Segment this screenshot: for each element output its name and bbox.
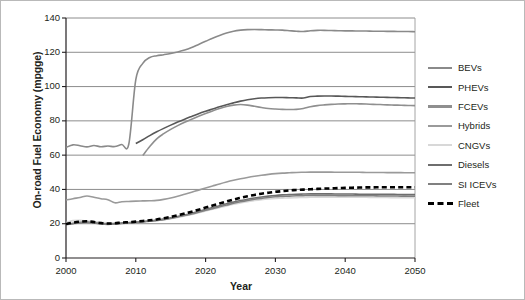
series-line-fleet bbox=[66, 187, 415, 224]
legend-item[interactable]: FCEVs bbox=[428, 97, 497, 116]
legend-item[interactable]: SI ICEVs bbox=[428, 174, 497, 193]
legend-item-label: Hybrids bbox=[458, 120, 490, 131]
series-line-diesels bbox=[66, 194, 415, 225]
legend-item[interactable]: CNGVs bbox=[428, 136, 497, 155]
legend-item[interactable]: Diesels bbox=[428, 155, 497, 174]
series-line-bevs bbox=[66, 29, 415, 148]
chart-legend: BEVsPHEVsFCEVsHybridsCNGVsDieselsSI ICEV… bbox=[428, 58, 497, 213]
legend-line-swatch-icon bbox=[428, 82, 452, 92]
series-line-fcevs bbox=[143, 104, 415, 156]
legend-item-label: FCEVs bbox=[458, 101, 488, 112]
series-line-phevs bbox=[136, 96, 415, 144]
legend-line-swatch-icon bbox=[428, 140, 452, 150]
series-line-hybrids bbox=[66, 172, 415, 203]
legend-line-swatch-icon bbox=[428, 101, 452, 111]
legend-item[interactable]: Hybrids bbox=[428, 116, 497, 135]
legend-line-swatch-icon bbox=[428, 160, 452, 170]
legend-item[interactable]: PHEVs bbox=[428, 77, 497, 96]
legend-item[interactable]: BEVs bbox=[428, 58, 497, 77]
legend-item-label: Diesels bbox=[458, 159, 489, 170]
legend-item-label: BEVs bbox=[458, 62, 482, 73]
legend-line-swatch-icon bbox=[428, 198, 452, 208]
legend-item-label: Fleet bbox=[458, 198, 479, 209]
chart-figure: On-road Fuel Economy (mpgge) Year 020406… bbox=[0, 0, 525, 300]
legend-item-label: CNGVs bbox=[458, 140, 490, 151]
legend-line-swatch-icon bbox=[428, 179, 452, 189]
legend-item[interactable]: Fleet bbox=[428, 194, 497, 213]
legend-item-label: SI ICEVs bbox=[458, 179, 497, 190]
legend-item-label: PHEVs bbox=[458, 82, 489, 93]
legend-line-swatch-icon bbox=[428, 121, 452, 131]
legend-line-swatch-icon bbox=[428, 63, 452, 73]
